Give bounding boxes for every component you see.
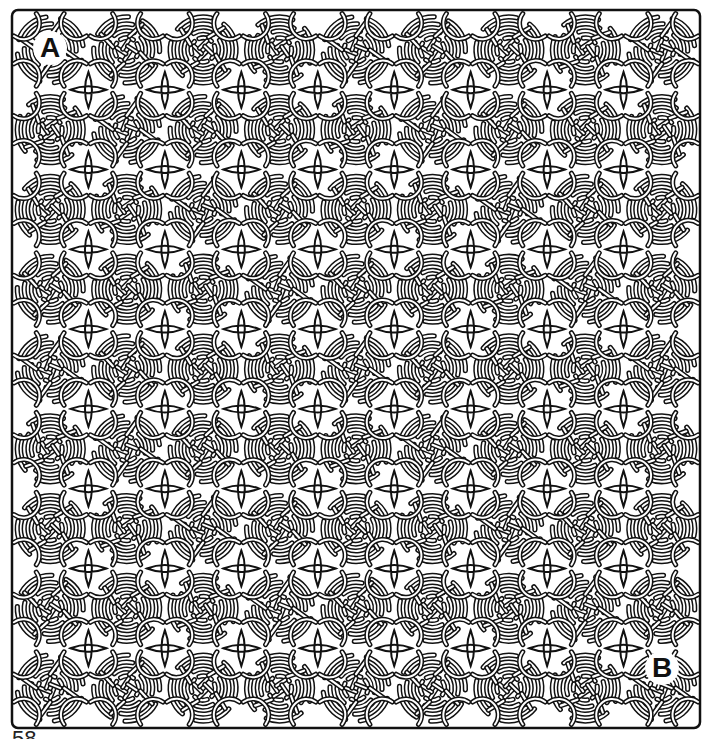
maze-pattern [0, 0, 710, 739]
start-label-a: A [33, 31, 67, 65]
end-label-b: B [645, 651, 679, 685]
page-number: 58 [12, 728, 36, 739]
